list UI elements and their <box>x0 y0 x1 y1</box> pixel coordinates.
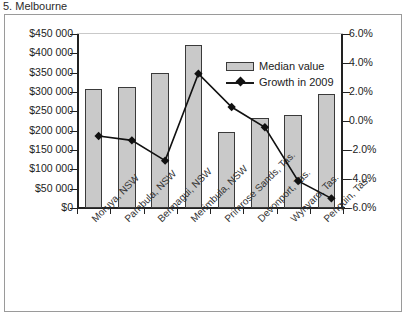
left-axis-tick-label: $400 000 <box>9 47 73 57</box>
right-axis-tick-label: -6.0% <box>349 202 405 212</box>
legend-label-median-value: Median value <box>259 59 324 73</box>
left-axis-tick-label: $150 000 <box>9 144 73 154</box>
x-axis-tick <box>77 209 78 214</box>
right-axis-tick-label: 2.0% <box>349 86 405 96</box>
cut-off-page-heading: 5. Melbourne <box>3 0 203 13</box>
left-axis-tick-label: $250 000 <box>9 105 73 115</box>
chart-frame: $450 000$400 000$350 000$300 000$250 000… <box>4 14 402 312</box>
right-axis-tick-label: 6.0% <box>349 28 405 38</box>
right-axis-tick-label: 4.0% <box>349 57 405 67</box>
left-axis-tick-label: $0 <box>9 202 73 212</box>
left-axis-tick-label: $200 000 <box>9 125 73 135</box>
bar-median-value <box>85 89 102 208</box>
left-axis-tick-label: $350 000 <box>9 67 73 77</box>
left-axis-tick-label: $300 000 <box>9 86 73 96</box>
legend-bar-swatch-icon <box>226 62 254 71</box>
left-axis-tick-label: $50 000 <box>9 183 73 193</box>
legend-label-growth: Growth in 2009 <box>259 75 334 89</box>
left-axis-tick-label: $100 000 <box>9 163 73 173</box>
legend-diamond-marker-icon <box>236 77 246 87</box>
right-axis-tick-label: -2.0% <box>349 144 405 154</box>
left-axis-tick-label: $450 000 <box>9 28 73 38</box>
right-axis-tick-label: 0.0% <box>349 115 405 125</box>
chart-legend: Median value Growth in 2009 <box>226 59 352 89</box>
